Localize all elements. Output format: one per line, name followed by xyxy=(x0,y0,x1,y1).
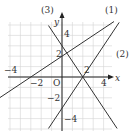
x-tick-2: 2 xyxy=(84,65,90,75)
x-tick-neg2: −2 xyxy=(30,78,43,88)
x-tick-4: 4 xyxy=(101,78,107,88)
x-axis-label: x xyxy=(115,73,120,83)
y-tick-neg4: −4 xyxy=(64,114,78,124)
line-2-label: (2) xyxy=(116,49,129,59)
y-axis-label: y xyxy=(53,17,60,27)
coordinate-diagram: x y O −4 −2 2 4 4 2 −2 −4 (1) (2) (3) xyxy=(0,0,139,131)
line-3-label: (3) xyxy=(41,5,54,15)
origin-label: O xyxy=(53,78,60,88)
y-tick-2: 2 xyxy=(56,49,62,59)
x-axis-arrow-icon xyxy=(108,75,114,80)
plot-lines xyxy=(0,22,119,129)
line-1-label: (1) xyxy=(105,5,118,15)
y-tick-neg2: −2 xyxy=(47,93,60,103)
y-axis-arrow-icon xyxy=(60,12,65,18)
y-tick-4: 4 xyxy=(64,29,70,39)
x-tick-neg4: −4 xyxy=(4,65,18,75)
